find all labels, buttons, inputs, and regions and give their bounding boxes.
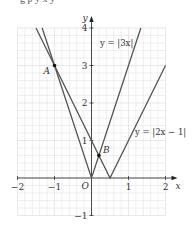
x-tick-label: 1 [126, 182, 132, 192]
point-label: A [43, 66, 51, 76]
origin-label: O [82, 181, 90, 191]
x-tick-label: −2 [11, 182, 24, 192]
y-tick-label: 4 [82, 23, 88, 33]
y-tick-label: 3 [82, 61, 88, 71]
graph: −2−112−11234xyOy = |3x|y = |2x − 1|AB [0, 0, 193, 228]
intersection-point [53, 64, 57, 68]
y-axis-label: y [82, 13, 89, 23]
point-label: B [102, 145, 110, 155]
series-label-3x: y = |3x| [99, 38, 133, 49]
labels: −2−112−11234xyOy = |3x|y = |2x − 1|AB [11, 13, 186, 221]
y-tick-label: −1 [74, 211, 87, 221]
y-tick-label: 2 [82, 98, 88, 108]
intersection-point [97, 154, 101, 158]
series-label-2x-1: y = |2x − 1| [134, 127, 186, 138]
y-tick-label: 1 [82, 136, 88, 146]
x-axis-label: x [176, 181, 181, 191]
x-tick-label: −1 [48, 182, 61, 192]
x-axis-arrow-icon [172, 176, 178, 180]
y-axis-arrow-icon [89, 16, 93, 22]
x-tick-label: 2 [163, 182, 169, 192]
